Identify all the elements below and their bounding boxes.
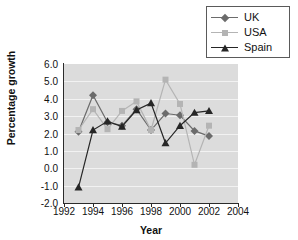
legend-label-spain: Spain bbox=[244, 41, 272, 54]
gridline bbox=[64, 81, 238, 82]
gridline bbox=[64, 134, 238, 135]
legend-item-uk[interactable]: UK bbox=[211, 10, 285, 25]
x-tick-mark bbox=[93, 203, 94, 207]
y-tick-label: 0.0 bbox=[24, 163, 58, 174]
x-tick-mark bbox=[151, 203, 152, 207]
legend-swatch-usa bbox=[211, 32, 238, 34]
x-tick-mark bbox=[209, 203, 210, 207]
legend-swatch-spain bbox=[211, 47, 238, 49]
chart-figure: Percentage growth 6.05.04.03.02.01.00.0-… bbox=[0, 0, 298, 240]
y-axis-line bbox=[63, 63, 64, 204]
x-tick-mark bbox=[238, 203, 239, 207]
legend-label-usa: USA bbox=[244, 26, 267, 39]
gridline bbox=[64, 99, 238, 100]
legend-item-spain[interactable]: Spain bbox=[211, 40, 285, 55]
legend-label-uk: UK bbox=[244, 11, 259, 24]
legend-swatch-uk bbox=[211, 17, 238, 19]
gridline bbox=[64, 168, 238, 169]
plot-area bbox=[64, 64, 238, 203]
diamond-marker-icon bbox=[220, 13, 228, 21]
gridline bbox=[64, 186, 238, 187]
triangle-marker-icon bbox=[221, 44, 229, 51]
y-tick-label: 1.0 bbox=[24, 145, 58, 156]
gridline bbox=[64, 151, 238, 152]
gridline bbox=[64, 116, 238, 117]
x-tick-label: 2004 bbox=[218, 206, 258, 217]
legend-item-usa[interactable]: USA bbox=[211, 25, 285, 40]
y-tick-label: 6.0 bbox=[24, 59, 58, 70]
square-marker-icon bbox=[222, 30, 228, 36]
y-axis-tick-labels: 6.05.04.03.02.01.00.0-1.0-2.0 bbox=[22, 0, 58, 240]
y-tick-label: 2.0 bbox=[24, 128, 58, 139]
y-tick-label: 4.0 bbox=[24, 93, 58, 104]
y-tick-label: -1.0 bbox=[24, 180, 58, 191]
y-axis-title: Percentage growth bbox=[5, 43, 17, 153]
legend: UK USA Spain bbox=[206, 6, 290, 58]
x-tick-mark bbox=[64, 203, 65, 207]
x-tick-mark bbox=[122, 203, 123, 207]
x-tick-mark bbox=[180, 203, 181, 207]
y-tick-label: 5.0 bbox=[24, 76, 58, 87]
x-axis-title: Year bbox=[64, 224, 238, 236]
y-tick-label: 3.0 bbox=[24, 111, 58, 122]
